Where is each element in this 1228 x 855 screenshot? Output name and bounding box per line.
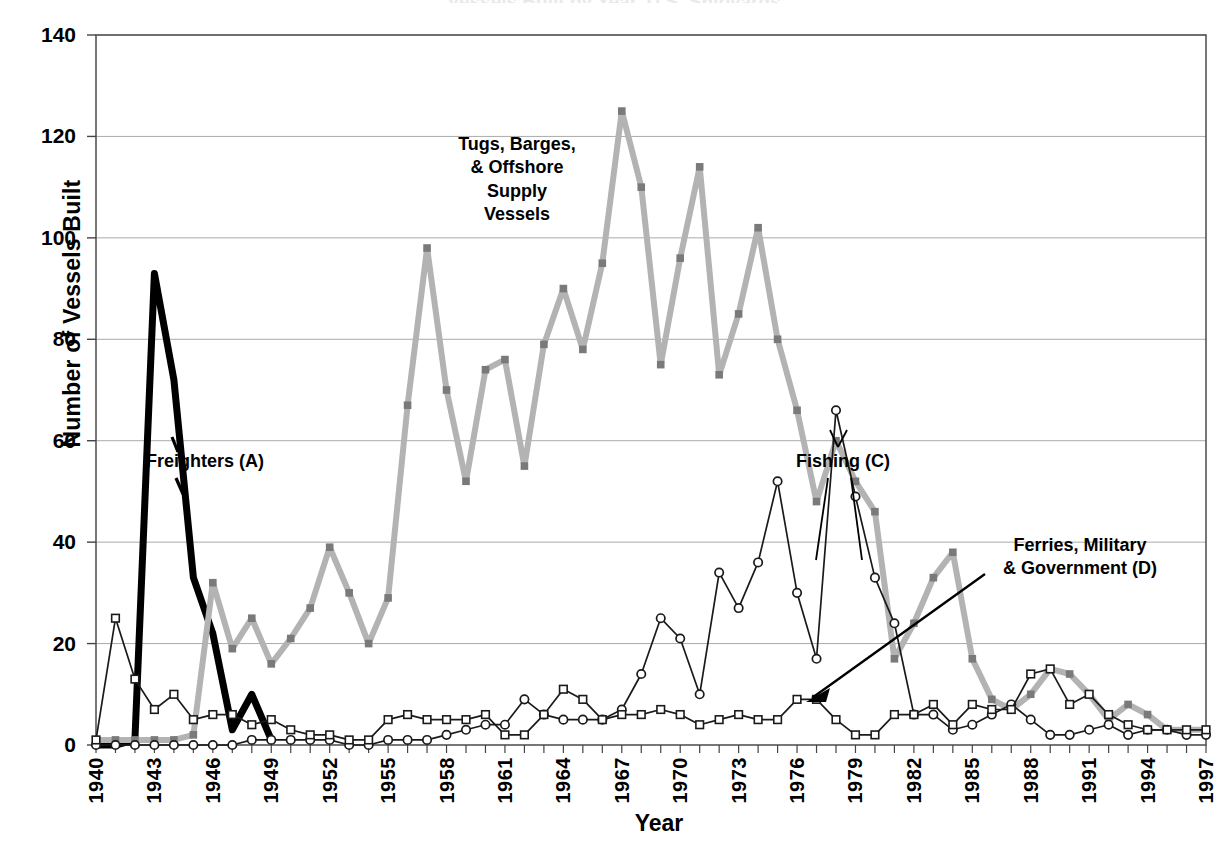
data-point-marker xyxy=(248,721,256,729)
data-point-marker xyxy=(658,362,664,368)
data-point-marker xyxy=(930,575,936,581)
data-point-marker xyxy=(131,675,139,683)
data-point-marker xyxy=(170,690,178,698)
data-point-marker xyxy=(209,741,217,749)
data-point-marker xyxy=(327,544,333,550)
data-point-marker xyxy=(1065,731,1073,739)
data-point-marker xyxy=(1144,726,1152,734)
data-point-marker xyxy=(989,696,995,702)
data-point-marker xyxy=(151,706,159,714)
leader-line-ferries xyxy=(812,574,985,698)
data-point-marker xyxy=(385,595,391,601)
data-point-marker xyxy=(442,731,450,739)
data-point-marker xyxy=(579,696,587,704)
data-point-marker xyxy=(1027,715,1035,723)
data-point-marker xyxy=(871,731,879,739)
data-point-marker xyxy=(521,463,527,469)
data-point-marker xyxy=(1085,726,1093,734)
data-point-marker xyxy=(1046,665,1054,673)
data-point-marker xyxy=(345,736,353,744)
data-point-marker xyxy=(599,260,605,266)
data-point-marker xyxy=(150,741,158,749)
data-point-marker xyxy=(872,509,878,515)
data-point-marker xyxy=(736,311,742,317)
data-point-marker xyxy=(365,736,373,744)
data-point-marker xyxy=(521,731,529,739)
data-point-marker xyxy=(346,590,352,596)
data-point-marker xyxy=(1066,701,1074,709)
data-point-marker xyxy=(676,634,684,642)
data-point-marker xyxy=(1145,712,1151,718)
data-point-marker xyxy=(326,731,334,739)
data-point-marker xyxy=(1125,701,1131,707)
data-point-marker xyxy=(267,716,275,724)
data-point-marker xyxy=(249,615,255,621)
data-point-marker xyxy=(404,711,412,719)
chart-page: Vessels Built by Year, U.S. Shipyards Nu… xyxy=(0,0,1228,855)
data-point-marker xyxy=(793,589,801,597)
arrow-head-icon xyxy=(806,688,830,702)
data-point-marker xyxy=(443,716,451,724)
data-point-marker xyxy=(424,245,430,251)
data-point-marker xyxy=(657,706,665,714)
data-point-marker xyxy=(969,656,975,662)
data-point-marker xyxy=(1007,706,1015,714)
data-point-marker xyxy=(287,736,295,744)
data-point-marker xyxy=(775,336,781,342)
data-point-marker xyxy=(755,225,761,231)
data-point-marker xyxy=(403,736,411,744)
data-point-marker xyxy=(287,726,295,734)
data-point-marker xyxy=(988,706,996,714)
annotation-fishing: Fishing (C) xyxy=(796,450,946,473)
data-point-marker xyxy=(949,721,957,729)
data-point-marker xyxy=(1105,711,1113,719)
data-point-marker xyxy=(580,346,586,352)
data-point-marker xyxy=(384,716,392,724)
data-point-marker xyxy=(1202,726,1210,734)
data-point-marker xyxy=(288,636,294,642)
data-point-marker xyxy=(1124,731,1132,739)
data-point-marker xyxy=(793,696,801,704)
data-point-marker xyxy=(112,614,120,622)
data-point-marker xyxy=(814,499,820,505)
annotation-tugs-barges: Tugs, Barges, & Offshore Supply Vessels xyxy=(432,133,602,227)
data-point-marker xyxy=(444,387,450,393)
data-point-marker xyxy=(405,402,411,408)
data-point-marker xyxy=(657,614,665,622)
data-point-marker xyxy=(696,721,704,729)
data-point-marker xyxy=(228,741,236,749)
data-point-marker xyxy=(170,741,178,749)
data-point-marker xyxy=(559,715,567,723)
data-point-marker xyxy=(482,367,488,373)
data-point-marker xyxy=(754,558,762,566)
data-point-marker xyxy=(715,716,723,724)
data-point-marker xyxy=(307,605,313,611)
data-point-marker xyxy=(716,372,722,378)
data-point-marker xyxy=(462,716,470,724)
data-point-marker xyxy=(677,255,683,261)
data-point-marker xyxy=(852,731,860,739)
data-point-marker xyxy=(463,478,469,484)
data-point-marker xyxy=(871,573,879,581)
data-point-marker xyxy=(111,741,119,749)
data-point-marker xyxy=(423,716,431,724)
data-point-marker xyxy=(715,568,723,576)
data-point-marker xyxy=(540,711,548,719)
series-0 xyxy=(96,273,271,745)
data-point-marker xyxy=(697,164,703,170)
data-point-marker xyxy=(423,736,431,744)
data-point-marker xyxy=(1183,726,1191,734)
data-point-marker xyxy=(891,711,899,719)
data-point-marker xyxy=(773,477,781,485)
data-point-marker xyxy=(267,736,275,744)
data-point-marker xyxy=(502,357,508,363)
annotation-freighters: Freighters (A) xyxy=(146,450,336,473)
data-point-marker xyxy=(541,341,547,347)
data-point-marker xyxy=(229,711,237,719)
data-point-marker xyxy=(1027,670,1035,678)
data-point-marker xyxy=(1067,671,1073,677)
data-point-marker xyxy=(929,710,937,718)
data-point-marker xyxy=(462,726,470,734)
data-point-marker xyxy=(579,715,587,723)
data-point-marker xyxy=(619,108,625,114)
